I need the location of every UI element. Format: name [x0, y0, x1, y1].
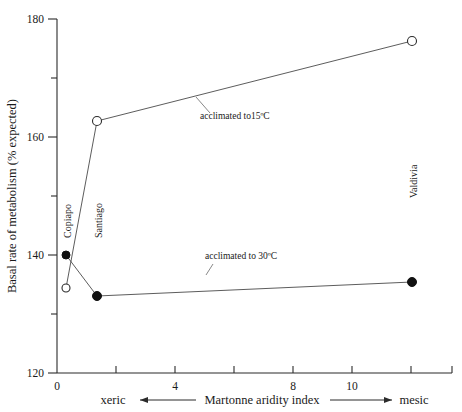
leader-line-30c [206, 264, 213, 275]
data-point-santiago-15c [93, 117, 102, 126]
y-tick-label-180: 180 [27, 13, 45, 25]
city-label-valdivia: Valdivia [408, 164, 419, 198]
y-tick-label-160: 160 [27, 131, 45, 143]
data-point-copiapo-30c [62, 251, 70, 259]
y-tick-label-120: 120 [27, 367, 45, 379]
series-line-acclimated-30c [66, 255, 412, 296]
annotation-acclimated-30c: acclimated to 30ºC [205, 251, 277, 261]
mesic-arrow-icon [330, 397, 392, 403]
x-tick-label-4: 4 [172, 380, 178, 392]
x-axis-title: Martonne aridity index [204, 393, 320, 407]
metabolism-aridity-scatter-line-chart: 180 160 140 120 0 4 8 10 Basal rate of m… [0, 0, 462, 412]
x-axis-ticks [116, 366, 452, 373]
annotation-acclimated-15c: acclimated to15ºC [200, 111, 270, 121]
data-point-copiapo-15c [62, 284, 70, 292]
xeric-arrow-icon [140, 397, 196, 403]
x-tick-label-8: 8 [290, 380, 296, 392]
x-axis-xeric-label: xeric [101, 393, 126, 407]
x-tick-label-0: 0 [54, 380, 60, 392]
data-point-santiago-30c [93, 292, 102, 301]
y-tick-label-140: 140 [27, 249, 45, 261]
x-axis-mesic-label: mesic [399, 393, 429, 407]
data-point-valdivia-30c [408, 278, 417, 287]
chart-figure: 180 160 140 120 0 4 8 10 Basal rate of m… [0, 0, 462, 412]
x-tick-label-10: 10 [346, 380, 358, 392]
city-label-santiago: Santiago [93, 203, 104, 238]
y-axis-minor-ticks [51, 78, 57, 314]
data-point-valdivia-15c [408, 37, 417, 46]
y-axis-title: Basal rate of metabolism (% expected) [5, 99, 19, 293]
city-label-copiapo: Copiapo [62, 204, 73, 238]
